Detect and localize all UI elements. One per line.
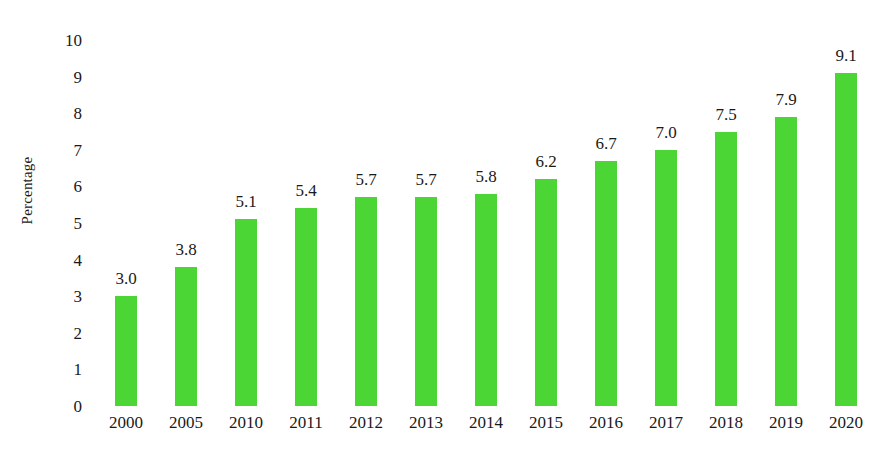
x-axis-tick-label: 2019	[769, 414, 803, 431]
x-axis-tick-label: 2010	[229, 414, 263, 431]
bar-group: 7.9	[756, 40, 816, 406]
bar[interactable]	[595, 161, 617, 406]
bar-value-label: 7.5	[715, 106, 736, 123]
x-axis-tick-label: 2014	[469, 414, 503, 431]
bar-value-label: 3.0	[115, 270, 136, 287]
bar-group: 7.5	[696, 40, 756, 406]
bar[interactable]	[115, 296, 137, 406]
bar[interactable]	[835, 73, 857, 406]
bar[interactable]	[775, 117, 797, 406]
bar-group: 6.2	[516, 40, 576, 406]
bar-value-label: 3.8	[175, 241, 196, 258]
bar-value-label: 7.9	[775, 91, 796, 108]
x-axis-tick-label: 2012	[349, 414, 383, 431]
bar-value-label: 6.7	[595, 135, 616, 152]
y-axis-tick-label: 8	[52, 105, 82, 122]
x-axis-tick-label: 2000	[109, 414, 143, 431]
y-axis-tick-label: 0	[52, 398, 82, 415]
bar-value-label: 5.7	[415, 171, 436, 188]
x-axis-tick-label: 2013	[409, 414, 443, 431]
y-axis-tick-label: 6	[52, 178, 82, 195]
bar[interactable]	[355, 197, 377, 406]
y-axis-tick-label: 5	[52, 215, 82, 232]
y-axis-title-label: Percentage	[20, 156, 37, 224]
bar[interactable]	[535, 179, 557, 406]
y-axis-tick-label: 3	[52, 288, 82, 305]
x-axis-tick-label: 2011	[289, 414, 322, 431]
bar-value-label: 5.8	[475, 168, 496, 185]
y-axis-tick-label: 9	[52, 68, 82, 85]
x-axis-tick-label: 2015	[529, 414, 563, 431]
x-axis-tick-labels: 2000200520102011201220132014201520162017…	[96, 414, 876, 444]
plot-area: 3.03.85.15.45.75.75.86.26.77.07.57.99.1	[96, 40, 876, 406]
bar[interactable]	[655, 150, 677, 406]
bar-group: 5.8	[456, 40, 516, 406]
bar-value-label: 9.1	[835, 47, 856, 64]
bar-group: 7.0	[636, 40, 696, 406]
y-axis-tick-label: 4	[52, 251, 82, 268]
bar[interactable]	[415, 197, 437, 406]
bar[interactable]	[715, 132, 737, 407]
bar-group: 5.4	[276, 40, 336, 406]
y-axis-tick-label: 1	[52, 361, 82, 378]
bar[interactable]	[295, 208, 317, 406]
bar-value-label: 5.1	[235, 193, 256, 210]
bar-chart: Percentage 109876543210 3.03.85.15.45.75…	[0, 0, 892, 460]
y-axis-tick-label: 7	[52, 141, 82, 158]
x-axis-tick-label: 2016	[589, 414, 623, 431]
bar-group: 5.1	[216, 40, 276, 406]
bar[interactable]	[475, 194, 497, 406]
bar-value-label: 5.4	[295, 182, 316, 199]
x-axis-tick-label: 2017	[649, 414, 683, 431]
x-axis-tick-label: 2018	[709, 414, 743, 431]
x-axis-tick-label: 2005	[169, 414, 203, 431]
bar-group: 5.7	[396, 40, 456, 406]
bar[interactable]	[175, 267, 197, 406]
y-axis-tick-label: 10	[52, 32, 82, 49]
bar-value-label: 6.2	[535, 153, 556, 170]
y-axis-tick-labels: 109876543210	[52, 0, 82, 460]
y-axis-tick-label: 2	[52, 324, 82, 341]
bar-value-label: 5.7	[355, 171, 376, 188]
x-axis-tick-label: 2020	[829, 414, 863, 431]
bar-value-label: 7.0	[655, 124, 676, 141]
bar-group: 3.0	[96, 40, 156, 406]
bar-group: 6.7	[576, 40, 636, 406]
bar-group: 3.8	[156, 40, 216, 406]
bar[interactable]	[235, 219, 257, 406]
bar-group: 5.7	[336, 40, 396, 406]
bar-group: 9.1	[816, 40, 876, 406]
y-axis-title: Percentage	[0, 0, 56, 380]
